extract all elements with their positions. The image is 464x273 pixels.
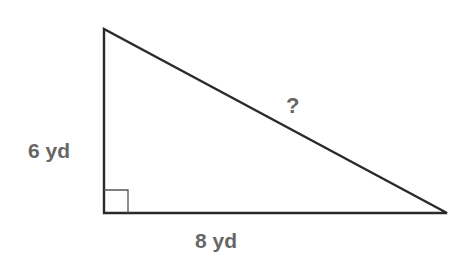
vertical-leg-label: 6 yd xyxy=(28,139,70,162)
right-triangle-diagram: 6 yd 8 yd ? xyxy=(0,0,464,273)
horizontal-leg-label: 8 yd xyxy=(195,229,237,252)
right-angle-marker xyxy=(104,190,128,213)
hypotenuse-label: ? xyxy=(286,93,299,118)
triangle-shape xyxy=(104,29,447,213)
